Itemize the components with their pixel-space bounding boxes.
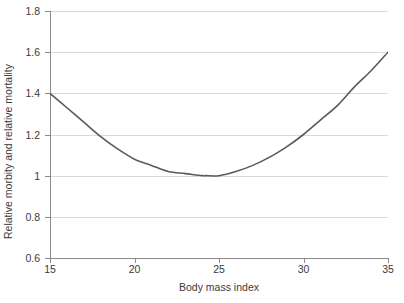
x-axis-tick-label: 30 — [298, 264, 310, 275]
y-axis-tick-label: 1.8 — [25, 6, 40, 16]
y-axis-tick-label: 1.4 — [25, 88, 40, 98]
data-curve — [50, 11, 388, 258]
chart-figure: 0.60.811.21.41.61.8 1520253035 Relative … — [0, 0, 404, 303]
y-axis-tick-label: 1.2 — [25, 130, 40, 140]
y-axis-tick-label: 1.6 — [25, 47, 40, 57]
y-axis-title: Relative morbity and relative mortality — [0, 0, 16, 303]
curve-path-relative-morbidity-mortality — [50, 52, 388, 176]
y-axis-tick-label: 0.6 — [25, 253, 40, 263]
x-axis-tick-label: 20 — [129, 264, 141, 275]
x-axis-title: Body mass index — [50, 281, 388, 293]
y-axis-tick-label: 1 — [34, 171, 40, 181]
x-axis-tick-label: 25 — [213, 264, 225, 275]
y-axis-tick-label: 0.8 — [25, 212, 40, 222]
x-axis-tick-label: 15 — [44, 264, 56, 275]
x-axis-tick-label: 35 — [382, 264, 394, 275]
